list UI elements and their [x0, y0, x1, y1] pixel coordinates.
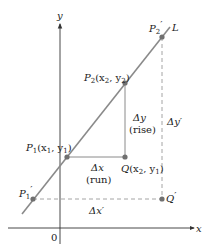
point-Q-prime: [159, 196, 164, 201]
slope-diagram: x y 0 L P2′ P2(x2, y2) P1(x1, y1) Q(x2, …: [0, 0, 204, 251]
x-axis-label: x: [196, 223, 202, 234]
delta-x-prime-label: Δx′: [88, 205, 105, 216]
line-L: [22, 27, 170, 214]
Q-prime-label: Q′: [166, 190, 177, 204]
line-L-label: L: [171, 22, 179, 33]
Q-label: Q(x2, y1): [121, 163, 164, 176]
delta-y-label: Δy: [132, 112, 146, 123]
point-Q: [122, 154, 127, 159]
P2-label: P2(x2, y2): [83, 72, 130, 85]
delta-y-prime-label: Δy′: [166, 116, 183, 127]
point-P1-prime: [30, 196, 35, 201]
origin-label: 0: [51, 232, 57, 243]
delta-x-label: Δx: [90, 162, 104, 173]
rise-label: (rise): [129, 124, 156, 135]
P2-prime-label: P2′: [148, 19, 163, 36]
P1-label: P1(x1, y1): [25, 142, 72, 155]
y-axis-label: y: [56, 10, 63, 21]
point-P1: [64, 154, 69, 159]
run-label: (run): [86, 174, 112, 185]
